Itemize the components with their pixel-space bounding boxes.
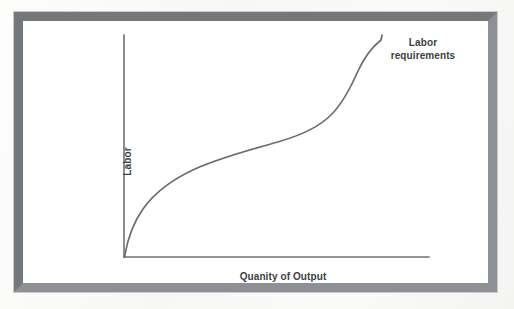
y-axis-title: Labor: [122, 132, 133, 192]
labor-requirements-curve: [125, 35, 383, 257]
series-annotation-line-1: Labor: [353, 36, 488, 49]
x-axis-title: Quanity of Output: [178, 271, 388, 282]
figure-frame: Labor requirements Quanity of Output Lab…: [14, 12, 497, 292]
series-annotation-label: Labor requirements: [353, 36, 488, 62]
figure-canvas: Labor requirements Quanity of Output Lab…: [23, 21, 488, 283]
series-annotation-line-2: requirements: [353, 49, 488, 62]
